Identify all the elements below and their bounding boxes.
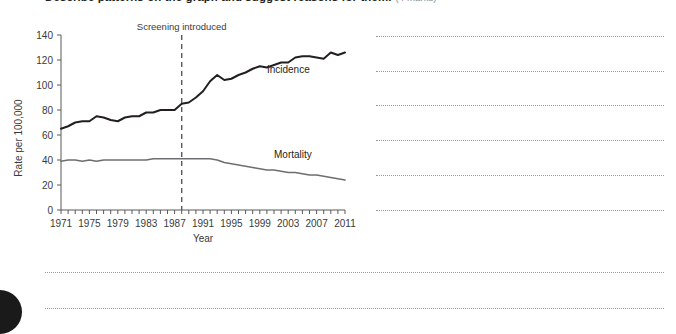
screening-introduced-label: Screening introduced xyxy=(137,21,227,32)
question-heading: Describe patterns on the graph and sugge… xyxy=(45,0,665,7)
screening-introduced-annotation: Screening introduced xyxy=(137,21,227,210)
x-tick-label: 1983 xyxy=(135,218,158,229)
y-tick-label: 0 xyxy=(47,205,53,216)
y-tick-label: 20 xyxy=(42,180,54,191)
line-chart: Rate per 100,000 020406080100120140 1971… xyxy=(0,18,365,246)
x-tick-label: 1991 xyxy=(192,218,215,229)
x-tick-label: 1975 xyxy=(78,218,101,229)
mortality-line xyxy=(61,159,345,180)
x-tick-label: 1999 xyxy=(249,218,272,229)
page-number-blob xyxy=(0,290,22,334)
x-tick-label: 1987 xyxy=(163,218,186,229)
incidence-series-label: Incidence xyxy=(267,64,310,75)
answer-line xyxy=(376,140,664,141)
answer-line xyxy=(45,272,664,273)
y-tick-label: 80 xyxy=(42,105,54,116)
x-tick-label: 2003 xyxy=(277,218,300,229)
y-tick-label: 40 xyxy=(42,155,54,166)
answer-line xyxy=(376,105,664,106)
x-tick-label: 1971 xyxy=(50,218,73,229)
chart-figure: Rate per 100,000 020406080100120140 1971… xyxy=(0,18,365,246)
y-tick-label: 120 xyxy=(36,55,53,66)
x-tick-label: 1995 xyxy=(220,218,243,229)
answer-line xyxy=(376,210,664,211)
question-text: Describe patterns on the graph and sugge… xyxy=(45,0,392,3)
x-axis-ticks: 1971197519791983198719911995199920032007… xyxy=(50,210,356,229)
x-tick-label: 1979 xyxy=(107,218,130,229)
mortality-series-label: Mortality xyxy=(274,149,312,160)
y-axis-ticks: 020406080100120140 xyxy=(36,30,61,216)
question-tick-marks: ✓✓✓✓ xyxy=(440,0,478,3)
x-axis-label: Year xyxy=(193,233,214,244)
answer-line xyxy=(376,36,664,37)
answer-line xyxy=(376,71,664,72)
answer-line xyxy=(45,308,664,309)
y-axis-label: Rate per 100,000 xyxy=(13,99,24,177)
x-tick-label: 2011 xyxy=(334,218,356,229)
y-tick-label: 100 xyxy=(36,80,53,91)
y-tick-label: 60 xyxy=(42,130,54,141)
answer-line xyxy=(376,175,664,176)
x-tick-label: 2007 xyxy=(305,218,328,229)
question-marks: (4 marks) xyxy=(396,0,437,3)
y-tick-label: 140 xyxy=(36,30,53,41)
